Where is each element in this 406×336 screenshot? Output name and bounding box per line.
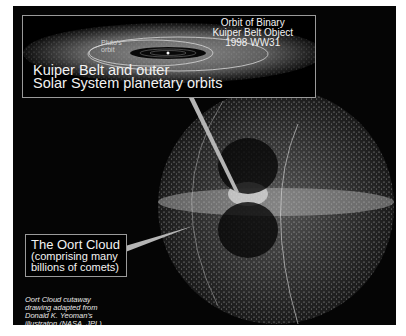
binary-kbo-orbit-label: Orbit of Binary Kuiper Belt Object 1998 …: [212, 18, 293, 48]
kuiper-belt-inset: Pluto's orbit Orbit of Binary Kuiper Bel…: [22, 15, 316, 98]
oort-cloud-diagram: Pluto's orbit Orbit of Binary Kuiper Bel…: [13, 6, 396, 325]
oort-cloud-subtitle-2: billions of comets): [31, 262, 121, 273]
pluto-orbit-label: Pluto's orbit: [101, 39, 122, 53]
oort-sphere: [158, 88, 394, 324]
oort-cloud-label-box: The Oort Cloud (comprising many billions…: [25, 234, 127, 277]
image-credit: Oort Cloud cutaway drawing adapted from …: [25, 296, 102, 325]
sun-icon: [167, 52, 170, 55]
kuiper-belt-title: Kuiper Belt and outer Solar System plane…: [33, 64, 222, 90]
